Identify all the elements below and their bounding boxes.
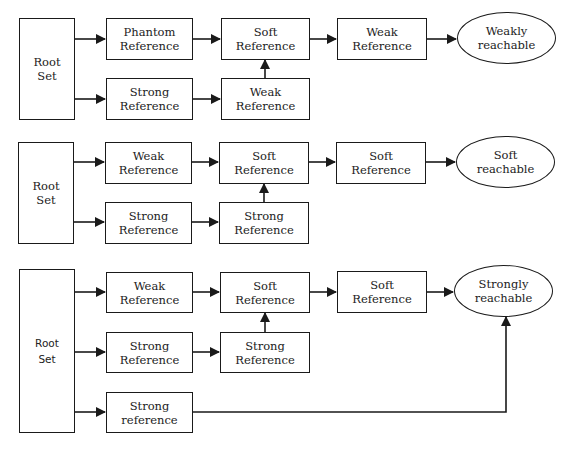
node-label: Weakly [486, 24, 528, 38]
strong-reference-box: Strong Reference [106, 78, 193, 120]
node-label: Strong [130, 339, 170, 353]
node-label: Soft [369, 149, 393, 163]
soft-reference-box: Soft Reference [337, 271, 427, 313]
node-label: Soft [252, 149, 276, 163]
soft-reference-box: Soft Reference [219, 142, 309, 184]
strongly-reachable-ellipse: Strongly reachable [454, 265, 553, 317]
node-label: Reference [236, 99, 295, 113]
phantom-reference-box: Phantom Reference [106, 18, 193, 60]
soft-reference-box: Soft Reference [336, 142, 426, 184]
weak-reference-box: Weak Reference [337, 18, 427, 60]
node-label: Reference [120, 99, 179, 113]
node-label: Strong [130, 85, 170, 99]
node-label: Reference [234, 223, 293, 237]
node-label: Phantom [124, 25, 176, 39]
node-label: reachable [478, 38, 536, 52]
soft-reference-box: Soft Reference [220, 272, 310, 313]
node-label: Weak [250, 85, 282, 99]
node-label: reachable [477, 162, 535, 176]
node-label: Weak [133, 149, 165, 163]
weak-reference-box: Weak Reference [221, 78, 310, 120]
node-label: Reference [235, 353, 294, 367]
node-label: Strong [129, 209, 169, 223]
node-label: Set [37, 69, 56, 83]
node-label: reference [121, 413, 177, 427]
node-label: Reference [120, 353, 179, 367]
node-label: Reference [119, 163, 178, 177]
node-label: Strong [130, 399, 170, 413]
node-label: Root [33, 55, 60, 69]
weak-reference-box: Weak Reference [106, 272, 193, 313]
node-label: Reference [120, 39, 179, 53]
root-set-box: Root Set [19, 18, 75, 120]
node-label: Strongly [479, 277, 529, 291]
node-label: Set [36, 193, 55, 207]
node-label: Soft [253, 279, 277, 293]
strong-reference-box: Strong Reference [105, 202, 192, 244]
node-label: Soft [494, 148, 518, 162]
node-label: Soft [370, 278, 394, 292]
node-label: Weak [366, 25, 398, 39]
node-label: Reference [120, 293, 179, 307]
soft-reachable-ellipse: Soft reachable [456, 136, 555, 188]
weak-reference-box: Weak Reference [105, 142, 192, 184]
node-label: Set [38, 351, 55, 367]
weakly-reachable-ellipse: Weakly reachable [457, 12, 556, 64]
node-label: Strong [245, 339, 285, 353]
strong-reference-box: Strong Reference [219, 202, 309, 244]
strong-reference-box: Strong Reference [220, 332, 310, 373]
root-set-box: Root Set [18, 142, 74, 244]
strong-reference-box: Strong Reference [106, 332, 193, 373]
node-label: Strong [244, 209, 284, 223]
node-label: Root [32, 179, 59, 193]
strong-reference-direct-box: Strong reference [106, 392, 193, 433]
node-label: Reference [235, 293, 294, 307]
node-label: Weak [134, 279, 166, 293]
node-label: reachable [475, 291, 533, 305]
soft-reference-box: Soft Reference [221, 18, 310, 60]
node-label: Reference [352, 39, 411, 53]
node-label: Reference [352, 292, 411, 306]
node-label: Soft [254, 25, 278, 39]
root-set-box: Root Set [19, 269, 75, 433]
node-label: Reference [234, 163, 293, 177]
node-label: Reference [236, 39, 295, 53]
node-label: Root [35, 335, 59, 351]
node-label: Reference [351, 163, 410, 177]
node-label: Reference [119, 223, 178, 237]
